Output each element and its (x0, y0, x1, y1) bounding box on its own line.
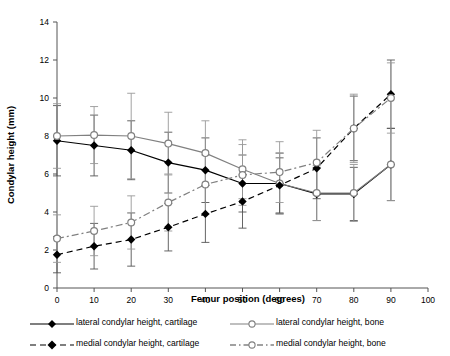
y-tick-label: 12 (40, 55, 50, 65)
error-bars-lateral (53, 93, 395, 221)
x-tick-label: 10 (89, 295, 99, 305)
y-tick-label: 4 (44, 207, 49, 217)
legend-label-medial-cartilage: medial condylar height, cartilage (76, 338, 199, 348)
error-bars-medial (53, 60, 395, 273)
legend-label-lateral-cartilage: lateral condylar height, cartilage (76, 317, 197, 327)
legend-entry-medial-cartilage[interactable]: medial condylar height, cartilage (28, 332, 228, 353)
error-bars-medial (53, 63, 395, 263)
y-tick-label: 8 (44, 131, 49, 141)
y-tick-label: 10 (40, 93, 50, 103)
legend-key-medial-cartilage (28, 337, 76, 349)
y-axis-title: Condylar height (mm) (5, 106, 16, 204)
series-1 (54, 132, 395, 197)
x-tick-label: 30 (164, 295, 174, 305)
legend-label-lateral-bone: lateral condylar height, bone (276, 317, 384, 327)
legend-row: medial condylar height, cartilage medial… (28, 332, 428, 353)
legend-entry-medial-bone[interactable]: medial condylar height, bone (228, 332, 428, 353)
legend-entry-lateral-cartilage[interactable]: lateral condylar height, cartilage (28, 311, 228, 332)
y-tick-label: 2 (44, 245, 49, 255)
x-tick-label: 0 (55, 295, 60, 305)
legend-entry-lateral-bone[interactable]: lateral condylar height, bone (228, 311, 428, 332)
y-tick-label: 0 (44, 283, 49, 293)
chart-legend: lateral condylar height, cartilage later… (28, 311, 428, 353)
chart-figure: 024681012140102030405060708090100 Femur … (0, 0, 450, 356)
series-0 (53, 137, 395, 199)
y-tick-label: 14 (40, 17, 50, 27)
legend-key-lateral-cartilage (28, 316, 76, 328)
legend-key-medial-bone (228, 337, 276, 349)
chart-plot-area: 024681012140102030405060708090100 Femur … (0, 0, 450, 356)
x-tick-label: 90 (386, 295, 396, 305)
y-tick-label: 6 (44, 169, 49, 179)
x-tick-label: 100 (421, 295, 435, 305)
legend-key-lateral-bone (228, 316, 276, 328)
x-tick-label: 80 (349, 295, 359, 305)
axes: 024681012140102030405060708090100 (40, 17, 436, 305)
data-series-group (53, 60, 395, 273)
series-2 (53, 90, 395, 259)
legend-row: lateral condylar height, cartilage later… (28, 311, 428, 332)
legend-label-medial-bone: medial condylar height, bone (276, 338, 386, 348)
series-3 (54, 95, 395, 242)
x-axis-title: Femur position (degrees) (191, 293, 305, 304)
error-bars-lateral (53, 106, 395, 221)
x-tick-label: 70 (312, 295, 322, 305)
x-tick-label: 20 (126, 295, 136, 305)
